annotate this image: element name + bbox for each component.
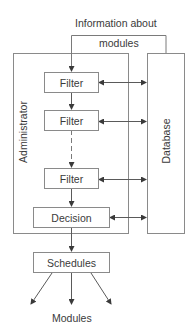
feedback-label-line2: modules (97, 38, 141, 49)
modules-output-label: Modules (52, 313, 92, 324)
filter-node-2: Filter (44, 110, 99, 131)
database-label: Database (161, 119, 172, 164)
decision-node: Decision (33, 207, 110, 228)
feedback-label-line1: Information about (75, 18, 157, 29)
administrator-label: Administrator (18, 101, 29, 163)
arrow-schedules-module-right (91, 273, 111, 304)
schedules-node: Schedules (33, 252, 110, 273)
filter-node-1: Filter (44, 72, 99, 93)
arrow-schedules-module-left (31, 273, 52, 304)
filter-node-3: Filter (44, 168, 99, 189)
